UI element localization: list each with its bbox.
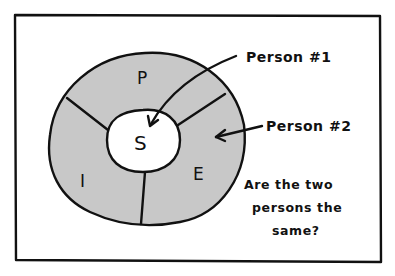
diagram-canvas: P I E S Person #1 Person #2 Are the two … (0, 0, 395, 276)
segment-label-i: I (80, 171, 85, 191)
question-text: Are the two persons the same? (244, 177, 342, 238)
segment-label-p: P (137, 68, 147, 88)
callout-person-1: Person #1 (246, 49, 331, 65)
question-line-2: persons the (252, 200, 342, 215)
question-line-3: same? (272, 223, 320, 238)
segment-label-e: E (193, 164, 204, 184)
question-line-1: Are the two (244, 177, 333, 192)
callout-person-2: Person #2 (266, 118, 351, 134)
center-label-s: S (134, 131, 147, 155)
